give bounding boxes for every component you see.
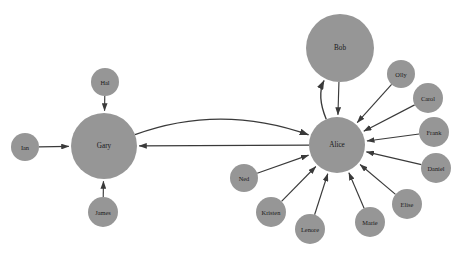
node-circle-frank[interactable]: [419, 117, 449, 147]
node-daniel[interactable]: Daniel: [421, 153, 451, 183]
node-circle-carol[interactable]: [413, 83, 443, 113]
network-graph: AliceGaryBobHalIanJamesOllyCarolFrankDan…: [0, 0, 460, 269]
edge-bob-alice: [338, 82, 339, 115]
node-circle-ian[interactable]: [11, 133, 39, 161]
node-lenore[interactable]: Lenore: [295, 214, 325, 244]
node-circle-olly[interactable]: [387, 60, 415, 88]
network-graph-canvas: AliceGaryBobHalIanJamesOllyCarolFrankDan…: [0, 0, 460, 269]
node-circle-kristen[interactable]: [256, 197, 286, 227]
node-elise[interactable]: Elise: [392, 189, 422, 219]
node-circle-alice[interactable]: [309, 117, 365, 173]
node-circle-elise[interactable]: [392, 189, 422, 219]
node-circle-ned[interactable]: [230, 164, 258, 192]
node-ian[interactable]: Ian: [11, 133, 39, 161]
node-circle-lenore[interactable]: [295, 214, 325, 244]
nodes-layer: AliceGaryBobHalIanJamesOllyCarolFrankDan…: [11, 14, 451, 244]
node-kristen[interactable]: Kristen: [256, 197, 286, 227]
edge-olly-alice: [357, 84, 391, 122]
node-olly[interactable]: Olly: [387, 60, 415, 88]
node-circle-gary[interactable]: [71, 113, 137, 179]
edge-lenore-alice: [315, 174, 328, 215]
node-circle-james[interactable]: [88, 197, 118, 227]
node-hal[interactable]: Hal: [91, 68, 119, 96]
edge-alice-bob: [321, 80, 326, 119]
node-frank[interactable]: Frank: [419, 117, 449, 147]
node-circle-hal[interactable]: [91, 68, 119, 96]
node-alice[interactable]: Alice: [309, 117, 365, 173]
edge-elise-alice: [360, 164, 395, 194]
edge-kristen-alice: [282, 167, 316, 202]
node-james[interactable]: James: [88, 197, 118, 227]
edge-alice-gary: [139, 145, 309, 146]
edge-carol-alice: [364, 105, 415, 131]
edge-ned-alice: [257, 155, 308, 173]
node-carol[interactable]: Carol: [413, 83, 443, 113]
node-marie[interactable]: Marie: [355, 207, 385, 237]
edge-gary-alice: [135, 119, 309, 135]
node-circle-marie[interactable]: [355, 207, 385, 237]
edge-marie-alice: [349, 173, 364, 208]
node-circle-daniel[interactable]: [421, 153, 451, 183]
node-circle-bob[interactable]: [306, 14, 374, 82]
edge-daniel-alice: [366, 152, 421, 165]
node-bob[interactable]: Bob: [306, 14, 374, 82]
node-ned[interactable]: Ned: [230, 164, 258, 192]
edge-frank-alice: [367, 134, 419, 141]
node-gary[interactable]: Gary: [71, 113, 137, 179]
